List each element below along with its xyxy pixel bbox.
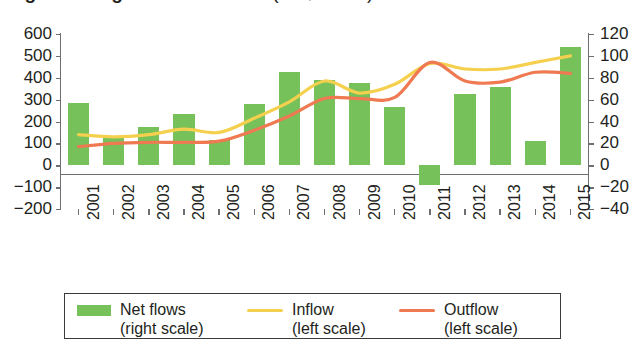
legend-line-swatch-outflow-icon (399, 309, 435, 312)
x-axis-label-2009: 2009 (367, 184, 383, 220)
x-axis-tick (394, 209, 395, 215)
legend-scale-inflow: (left scale) (292, 320, 366, 337)
legend-scale-net-flows: (right scale) (120, 320, 204, 337)
line-inflow (79, 56, 571, 137)
x-axis-tick (289, 209, 290, 215)
x-axis-label-2007: 2007 (296, 184, 312, 220)
legend-item-net-flows: Net flows (right scale) (77, 300, 204, 338)
x-axis-tick (183, 209, 184, 215)
x-axis-label-2005: 2005 (226, 184, 242, 220)
legend-scale-outflow: (left scale) (444, 320, 518, 337)
x-axis-label-2003: 2003 (156, 184, 172, 220)
x-axis-label-2014: 2014 (542, 184, 558, 220)
legend-label-inflow: Inflow (292, 301, 334, 318)
legend-label-net-flows: Net flows (120, 301, 186, 318)
x-axis-label-2015: 2015 (577, 184, 593, 220)
x-axis-tick (535, 209, 536, 215)
x-axis-tick (113, 209, 114, 215)
x-axis-tick (324, 209, 325, 215)
x-axis-label-2011: 2011 (437, 186, 453, 220)
legend-item-inflow: Inflow (left scale) (247, 300, 366, 338)
legend-label-outflow: Outflow (444, 301, 498, 318)
x-axis-tick (570, 209, 571, 215)
x-axis-tick (359, 209, 360, 215)
x-axis-tick (464, 209, 465, 215)
legend-item-outflow: Outflow (left scale) (399, 300, 518, 338)
x-axis-tick (148, 209, 149, 215)
x-axis-label-2013: 2013 (507, 184, 523, 220)
chart-container: Figure 3. Migrant remittances (US$ billi… (0, 0, 638, 345)
x-axis-label-2008: 2008 (332, 184, 348, 220)
legend-bar-swatch-icon (77, 305, 111, 316)
x-axis-label-2012: 2012 (472, 184, 488, 220)
x-axis-tick (499, 209, 500, 215)
x-axis-label-2001: 2001 (86, 184, 102, 220)
chart-legend: Net flows (right scale) Inflow (left sca… (64, 293, 561, 339)
x-axis-tick (254, 209, 255, 215)
x-axis-tick (218, 209, 219, 215)
x-axis-label-2010: 2010 (402, 184, 418, 220)
legend-line-swatch-inflow-icon (247, 309, 283, 312)
x-axis-tick (429, 209, 430, 215)
x-axis-tick (78, 209, 79, 215)
x-axis-label-2006: 2006 (261, 184, 277, 220)
x-axis-label-2002: 2002 (121, 184, 137, 220)
x-axis-label-2004: 2004 (191, 184, 207, 220)
